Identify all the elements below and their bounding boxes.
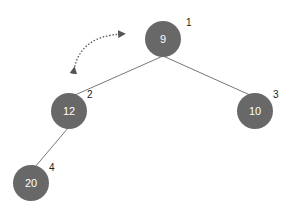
edge-9-10 xyxy=(163,56,250,95)
node-index-label: 2 xyxy=(87,89,93,100)
swap-arrow-icon xyxy=(74,34,122,70)
tree-diagram: 9 1 12 2 10 3 20 4 xyxy=(0,0,298,210)
node-index-label: 4 xyxy=(49,162,55,173)
tree-node-left: 12 xyxy=(51,93,87,129)
tree-node-root: 9 xyxy=(145,21,181,57)
tree-node-right: 10 xyxy=(237,93,273,129)
node-index-label: 3 xyxy=(273,89,279,100)
node-index-label: 1 xyxy=(186,17,192,28)
tree-node-left-left: 20 xyxy=(13,165,49,201)
